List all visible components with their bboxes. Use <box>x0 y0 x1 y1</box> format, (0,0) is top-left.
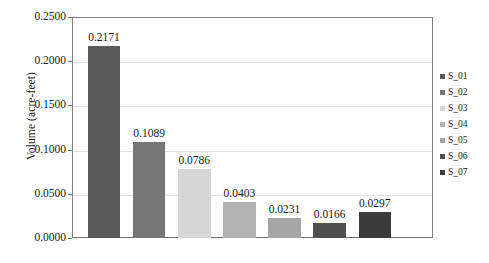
bar[interactable] <box>133 142 165 238</box>
bar-value-label: 0.0231 <box>269 203 301 215</box>
bar[interactable] <box>88 46 120 238</box>
legend-swatch-icon <box>440 122 445 127</box>
bar-value-label: 0.1089 <box>133 127 165 139</box>
y-axis-tick-label: 0.2500 <box>4 11 66 22</box>
legend-item-s_04[interactable]: S_04 <box>440 116 489 132</box>
legend-swatch-icon <box>440 106 445 111</box>
legend-swatch-icon <box>440 90 445 95</box>
bar[interactable] <box>313 223 345 238</box>
legend-swatch-icon <box>440 138 445 143</box>
legend-item-s_03[interactable]: S_03 <box>440 100 489 116</box>
y-axis-tick-mark <box>68 238 72 239</box>
legend-item-label: S_06 <box>448 151 468 161</box>
y-axis-tick-label: 0.1500 <box>4 99 66 110</box>
bar-value-label: 0.0786 <box>178 154 210 166</box>
bar-value-label: 0.0166 <box>314 208 346 220</box>
bar-value-label: 0.0297 <box>359 197 391 209</box>
bars-layer: 0.21710.10890.07860.04030.02310.01660.02… <box>72 17 433 238</box>
legend-item-s_06[interactable]: S_06 <box>440 148 489 164</box>
bar-group: 0.0786 <box>178 17 210 238</box>
bar-group: 0.2171 <box>88 17 120 238</box>
bar-group: 0.0166 <box>313 17 345 238</box>
bar-value-label: 0.2171 <box>88 31 120 43</box>
legend-swatch-icon <box>440 154 445 159</box>
bar-chart: Volume (acre-feet) 0.00000.05000.10000.1… <box>0 0 489 263</box>
legend-item-s_02[interactable]: S_02 <box>440 84 489 100</box>
y-axis-tick-label: 0.2000 <box>4 55 66 66</box>
bar[interactable] <box>359 212 391 238</box>
legend-item-label: S_07 <box>448 167 468 177</box>
bar[interactable] <box>178 169 210 238</box>
y-axis-tick-label: 0.1000 <box>4 144 66 155</box>
legend-item-label: S_03 <box>448 103 468 113</box>
legend-item-s_05[interactable]: S_05 <box>440 132 489 148</box>
bar-group: 0.0403 <box>223 17 255 238</box>
legend-item-label: S_05 <box>448 135 468 145</box>
y-axis-tick-label: 0.0000 <box>4 232 66 243</box>
legend-item-s_07[interactable]: S_07 <box>440 164 489 180</box>
legend-swatch-icon <box>440 170 445 175</box>
legend: S_01S_02S_03S_04S_05S_06S_07 <box>440 68 489 180</box>
legend-item-s_01[interactable]: S_01 <box>440 68 489 84</box>
bar[interactable] <box>268 218 300 238</box>
bar[interactable] <box>223 202 255 238</box>
bar-group: 0.0297 <box>359 17 391 238</box>
legend-item-label: S_02 <box>448 87 468 97</box>
bar-group: 0.0231 <box>268 17 300 238</box>
legend-item-label: S_04 <box>448 119 468 129</box>
bar-group: 0.1089 <box>133 17 165 238</box>
bar-value-label: 0.0403 <box>224 187 256 199</box>
legend-swatch-icon <box>440 74 445 79</box>
y-axis-tick-label: 0.0500 <box>4 188 66 199</box>
legend-item-label: S_01 <box>448 71 468 81</box>
